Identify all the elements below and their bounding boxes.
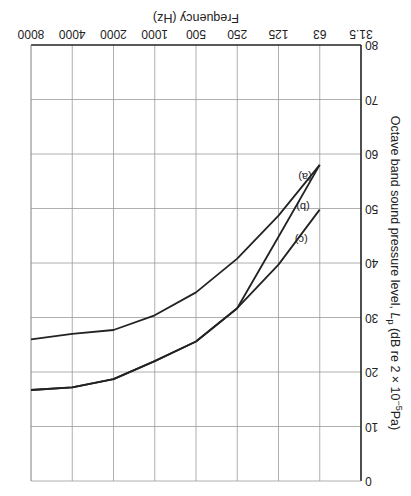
x-axis-title: Frequency (Hz): [153, 11, 239, 25]
y-tick-label: 60: [365, 147, 379, 161]
x-tick-label: 500: [186, 27, 206, 41]
x-tick-label: 250: [227, 27, 247, 41]
grid: [31, 45, 361, 481]
series-curve-c: [31, 210, 320, 390]
series-curves: [31, 165, 320, 390]
x-tick-label: 4000: [59, 27, 86, 41]
y-tick-label: 30: [365, 311, 379, 325]
y-tick-label: 80: [365, 38, 379, 52]
y-tick-label: 20: [365, 365, 379, 379]
y-tick-label: 50: [365, 202, 379, 216]
series-labels: (a)(b)(c): [295, 171, 312, 246]
y-tick-label: 40: [365, 256, 379, 270]
series-label-a: (a): [298, 171, 311, 183]
y-tick-label: 0: [365, 474, 372, 488]
y-axis-title: Octave band sound pressure level, Lp (dB…: [386, 116, 404, 430]
y-tick-label: 70: [365, 93, 379, 107]
x-tick-label: 63: [313, 27, 327, 41]
series-curve-b: [31, 165, 320, 390]
chart-svg: 31.5631252505001000200040008000010203040…: [0, 0, 411, 496]
tick-labels: 31.5631252505001000200040008000010203040…: [17, 27, 378, 488]
noise-spectrum-chart: 31.5631252505001000200040008000010203040…: [0, 0, 411, 496]
series-label-b: (b): [296, 201, 309, 213]
x-tick-label: 2000: [100, 27, 127, 41]
y-tick-label: 10: [365, 420, 379, 434]
x-tick-label: 1000: [141, 27, 168, 41]
series-label-c: (c): [295, 234, 308, 246]
x-tick-label: 8000: [17, 27, 44, 41]
x-tick-label: 125: [268, 27, 288, 41]
series-curve-a: [31, 165, 320, 339]
